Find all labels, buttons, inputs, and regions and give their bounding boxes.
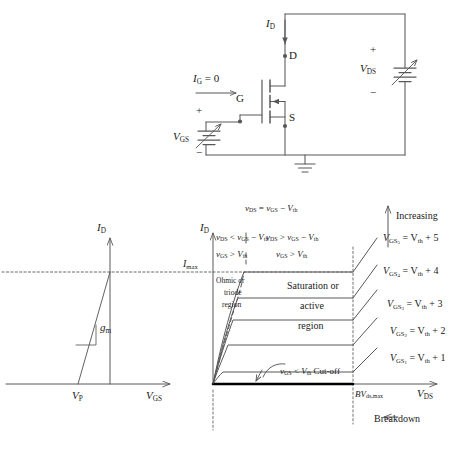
vgs-subscript: GS xyxy=(180,136,189,144)
cutoff-condition-label: vGS < Vth Cut-off xyxy=(280,367,340,376)
vgs4-offset: + 4 xyxy=(423,265,439,276)
vgs1-offset: + 1 xyxy=(430,352,446,363)
breakdown-voltage-label: BVds,max xyxy=(355,390,383,399)
output-x-subscript: DS xyxy=(424,393,433,401)
pinchoff-condition-label: vDS = vGS − Vth xyxy=(245,204,297,213)
vgs-plus-sign: + xyxy=(196,105,202,116)
curve-vgs5-breakdown xyxy=(353,238,377,272)
curve-label-vgs2: VGS2 = Vth + 2 xyxy=(390,326,445,336)
transconductance-subscript: m xyxy=(106,327,112,335)
transfer-plot xyxy=(2,238,213,384)
output-y-axis-label: ID xyxy=(200,222,209,233)
vgs4-sub: GS4 xyxy=(389,270,400,277)
vgs2-offset: + 2 xyxy=(430,325,446,336)
curve-label-vgs3: VGS3 = Vth + 3 xyxy=(387,299,442,309)
saturation-condition-line1: vDS > vGS − Vth xyxy=(266,233,318,242)
vds-symbol: V xyxy=(360,62,367,74)
vgs1-sub: GS1 xyxy=(396,357,407,364)
curve-label-vgs4: VGS4 = Vth + 4 xyxy=(383,266,438,276)
vgs2-sub: GS2 xyxy=(396,330,407,337)
ohmic-region-line1: Ohmic or xyxy=(216,277,245,285)
saturation-region-line2: active xyxy=(300,301,324,311)
vgs3-sub: GS3 xyxy=(393,303,404,310)
output-x-symbol: V xyxy=(417,387,424,399)
vgs4-eq: = V xyxy=(400,265,418,276)
transconductance-label: gm xyxy=(100,322,111,333)
vgs5-sub: GS5 xyxy=(389,237,400,244)
pinchoff-symbol: V xyxy=(72,389,79,401)
breakdown-voltage-subscript: ds,max xyxy=(366,393,383,399)
triode-condition-line1: vDS < vGS − Vth xyxy=(216,233,268,242)
gate-current-value: = 0 xyxy=(202,72,219,84)
imax-subscript: max xyxy=(186,263,197,270)
saturation-region-line3: region xyxy=(298,321,324,331)
saturation-condition-line2: vGS > Vth xyxy=(276,250,307,259)
vgs2-eq: = V xyxy=(407,325,425,336)
curve-label-vgs5: VGS5 = Vth + 5 xyxy=(383,233,438,243)
node-drain-dot xyxy=(283,54,287,58)
vgs-source-label: VGS xyxy=(173,131,189,142)
vds-minus-sign: − xyxy=(370,87,376,98)
cutoff-text: Cut-off xyxy=(314,366,340,376)
imax-label: Imax xyxy=(183,259,198,269)
transfer-x-subscript: GS xyxy=(153,395,162,403)
transconductance-triangle xyxy=(76,325,96,345)
ohmic-region-line2: triode xyxy=(224,289,242,297)
vgs-symbol: V xyxy=(173,130,180,142)
vds-source-label: VDS xyxy=(360,63,376,74)
curve-vgs2-breakdown xyxy=(353,318,377,345)
figure-canvas xyxy=(0,0,470,459)
transfer-y-subscript: D xyxy=(101,227,106,235)
transfer-x-symbol: V xyxy=(146,389,153,401)
ohmic-region-line3: region xyxy=(222,301,241,309)
curve-vgs4-breakdown xyxy=(353,265,377,298)
vgs3-eq: = V xyxy=(404,298,422,309)
node-source-dot xyxy=(283,124,287,128)
terminal-drain-label: D xyxy=(289,50,297,61)
pinchoff-subscript: P xyxy=(79,395,83,403)
circuit-schematic xyxy=(196,14,417,172)
curve-vgs1-breakdown xyxy=(353,348,377,372)
vgs-minus-sign: − xyxy=(196,147,202,158)
vds-plus-sign: + xyxy=(370,44,376,55)
curve-vgs3-breakdown xyxy=(353,290,377,320)
terminal-gate-label: G xyxy=(236,93,244,104)
curve-label-vgs1: VGS1 = Vth + 1 xyxy=(390,353,445,363)
vgs1-eq: = V xyxy=(407,352,425,363)
transfer-x-axis-label: VGS xyxy=(146,390,162,401)
vgs5-offset: + 5 xyxy=(423,232,439,243)
output-y-subscript: D xyxy=(204,227,209,235)
saturation-region-line1: Saturation or xyxy=(287,281,339,291)
figure-root: ID IG = 0 D G S VGS + − VDS + − ID VGS I… xyxy=(0,0,470,459)
breakdown-voltage-symbol: BV xyxy=(355,389,366,399)
node-gate-dot xyxy=(238,119,242,123)
triode-condition-line2: vGS > Vth xyxy=(216,250,247,259)
drain-current-subscript: D xyxy=(270,23,275,31)
vds-subscript: DS xyxy=(367,68,376,76)
drain-current-label: ID xyxy=(266,18,275,29)
vgs3-offset: + 3 xyxy=(427,298,443,309)
gate-current-label: IG = 0 xyxy=(193,73,219,84)
pinchoff-voltage-label: VP xyxy=(72,390,83,401)
transfer-y-axis-label: ID xyxy=(97,222,106,233)
output-x-axis-label: VDS xyxy=(417,388,433,399)
vgs5-eq: = V xyxy=(400,232,418,243)
increasing-label: Increasing xyxy=(396,211,438,221)
terminal-source-label: S xyxy=(289,112,295,123)
breakdown-region-label: Breakdown xyxy=(374,414,420,424)
curve-vgs2 xyxy=(213,345,353,384)
